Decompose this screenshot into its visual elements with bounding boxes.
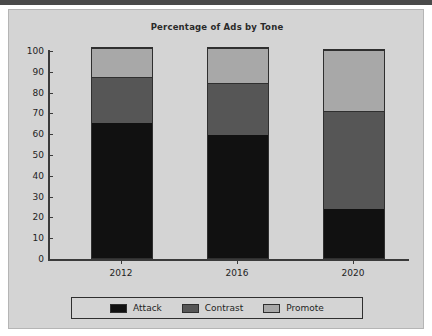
y-axis-tick <box>48 197 53 198</box>
y-axis-tick-label: 10 <box>9 233 44 243</box>
bar-stack[interactable] <box>323 49 385 259</box>
y-axis-tick <box>48 155 53 156</box>
y-axis-tick-label: 40 <box>9 171 44 181</box>
y-axis-tick <box>48 217 53 218</box>
bar-segment-promote[interactable] <box>208 48 268 83</box>
legend-item-attack[interactable]: Attack <box>110 303 162 313</box>
scan-top-strip <box>0 0 432 5</box>
bar-segment-promote[interactable] <box>324 50 384 111</box>
y-axis-tick <box>48 134 53 135</box>
y-axis-tick-label: 0 <box>9 254 44 264</box>
bar-segment-attack[interactable] <box>324 209 384 258</box>
y-axis-tick <box>48 93 53 94</box>
bar-segment-contrast[interactable] <box>324 111 384 209</box>
y-axis-tick-label: 90 <box>9 67 44 77</box>
legend-swatch-icon <box>110 304 127 313</box>
y-axis-tick-label: 60 <box>9 129 44 139</box>
legend-swatch-icon <box>182 304 199 313</box>
bar-stack[interactable] <box>91 47 153 259</box>
y-axis-tick <box>48 113 53 114</box>
y-axis-tick-label: 50 <box>9 150 44 160</box>
bar-segment-contrast[interactable] <box>92 77 152 123</box>
legend-swatch-icon <box>263 304 280 313</box>
x-axis-tick-label: 2020 <box>342 268 365 278</box>
bar-stack[interactable] <box>207 47 269 259</box>
x-axis-tick <box>121 259 122 264</box>
legend-label: Promote <box>286 303 324 313</box>
y-axis-tick <box>48 238 53 239</box>
y-axis-tick <box>48 51 53 52</box>
bar-segment-attack[interactable] <box>92 123 152 258</box>
legend-label: Contrast <box>205 303 243 313</box>
plot-area: 0102030405060708090100 201220162020 <box>9 10 425 330</box>
bar-segment-promote[interactable] <box>92 48 152 77</box>
chart-panel: Percentage of Ads by Tone 01020304050607… <box>8 9 424 329</box>
page-root: Percentage of Ads by Tone 01020304050607… <box>0 0 432 336</box>
chart-legend: AttackContrastPromote <box>71 297 363 319</box>
y-axis-tick <box>48 72 53 73</box>
x-axis-tick-label: 2016 <box>226 268 249 278</box>
y-axis-tick-label: 20 <box>9 212 44 222</box>
legend-item-contrast[interactable]: Contrast <box>182 303 243 313</box>
x-axis-tick-label: 2012 <box>110 268 133 278</box>
y-axis-tick-label: 100 <box>9 46 44 56</box>
y-axis-tick <box>48 176 53 177</box>
y-axis-tick-label: 70 <box>9 108 44 118</box>
legend-label: Attack <box>133 303 162 313</box>
x-axis-line <box>48 259 409 261</box>
y-axis-tick-label: 80 <box>9 88 44 98</box>
bar-segment-contrast[interactable] <box>208 83 268 135</box>
bar-segment-attack[interactable] <box>208 135 268 258</box>
x-axis-tick <box>353 259 354 264</box>
legend-item-promote[interactable]: Promote <box>263 303 324 313</box>
y-axis-tick <box>48 259 53 260</box>
x-axis-tick <box>237 259 238 264</box>
y-axis-tick-label: 30 <box>9 192 44 202</box>
